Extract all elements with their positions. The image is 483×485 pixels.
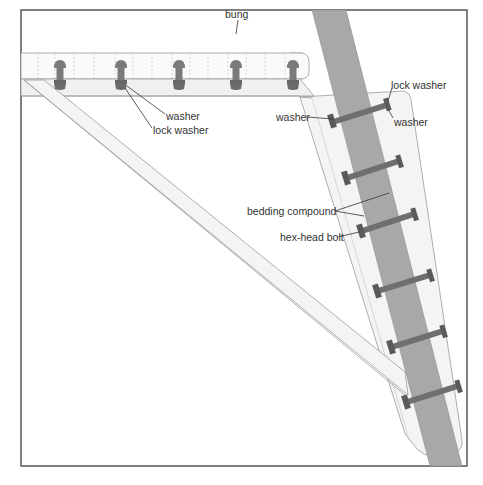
label-bedding-compound: bedding compound xyxy=(247,205,336,217)
diagram-svg xyxy=(0,0,483,485)
label-lock-washer-right: lock washer xyxy=(391,79,446,91)
label-lock-washer-top: lock washer xyxy=(153,124,208,136)
label-hex-head-bolt: hex-head bolt xyxy=(280,231,344,243)
label-washer-top: washer xyxy=(166,110,200,122)
diagram-canvas: bung washer lock washer washer lock wash… xyxy=(0,0,483,485)
label-washer-right: washer xyxy=(394,116,428,128)
label-washer-left: washer xyxy=(276,111,310,123)
label-bung: bung xyxy=(225,8,248,20)
